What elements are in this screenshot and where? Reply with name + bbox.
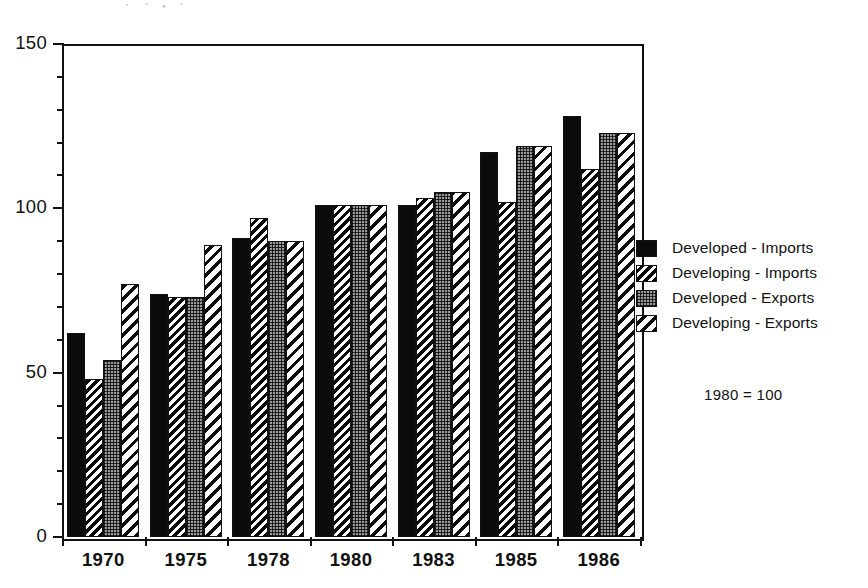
bar <box>416 198 434 537</box>
chart-figure: 050100150 1970197519781980198319851986 D… <box>0 0 868 588</box>
bar <box>286 241 304 537</box>
bar <box>204 245 222 538</box>
x-axis-tick <box>392 537 394 546</box>
bar <box>85 379 103 537</box>
x-axis-tick <box>475 537 477 546</box>
x-axis-tick-label: 1985 <box>475 549 558 575</box>
bar <box>250 218 268 537</box>
x-axis-ticks <box>62 537 640 547</box>
x-axis-tick <box>557 537 559 546</box>
bar-group <box>475 44 558 537</box>
legend-item-label: Developing - Exports <box>672 314 818 332</box>
bar-group <box>62 44 145 537</box>
legend-item-label: Developing - Imports <box>672 264 817 282</box>
legend-item: Developing - Imports <box>636 261 862 285</box>
x-axis-tick <box>145 537 147 546</box>
bar-group <box>145 44 228 537</box>
legend-item-label: Developed - Exports <box>672 289 814 307</box>
legend-item: Developing - Exports <box>636 311 862 335</box>
bar <box>452 192 470 537</box>
x-axis-tick-label: 1986 <box>557 549 640 575</box>
x-axis-tick-label: 1978 <box>227 549 310 575</box>
bar-group <box>557 44 640 537</box>
bar <box>563 116 581 537</box>
bar <box>351 205 369 537</box>
x-axis-tick-label: 1980 <box>310 549 393 575</box>
bar <box>617 133 635 537</box>
x-axis-tick <box>640 537 642 546</box>
bar <box>121 284 139 537</box>
bar <box>186 297 204 537</box>
x-axis-tick <box>310 537 312 546</box>
chart-legend: Developed - Imports Developing - Imports… <box>636 236 862 336</box>
bar <box>315 205 333 537</box>
bar <box>581 169 599 537</box>
legend-item: Developed - Imports <box>636 236 862 260</box>
x-axis-tick <box>62 537 64 546</box>
x-axis-tick-label: 1983 <box>392 549 475 575</box>
bar <box>333 205 351 537</box>
x-axis-tick <box>227 537 229 546</box>
bar <box>369 205 387 537</box>
legend-item: Developed - Exports <box>636 286 862 310</box>
x-axis-labels: 1970197519781980198319851986 <box>62 549 640 575</box>
scan-speckle-artifact <box>120 2 190 8</box>
bar <box>232 238 250 537</box>
bar <box>599 133 617 537</box>
bar <box>434 192 452 537</box>
bar <box>398 205 416 537</box>
bars-layer <box>62 44 640 537</box>
bar <box>534 146 552 537</box>
bar <box>150 294 168 537</box>
bar-group <box>310 44 393 537</box>
legend-swatch-dense-hatch-icon <box>636 265 657 282</box>
bar <box>103 360 121 537</box>
x-axis-tick-label: 1975 <box>145 549 228 575</box>
legend-swatch-solid-black-icon <box>636 240 657 257</box>
bar <box>516 146 534 537</box>
bar <box>498 202 516 537</box>
legend-swatch-gray-dots-icon <box>636 290 657 307</box>
bar-group <box>227 44 310 537</box>
x-axis-tick-label: 1970 <box>62 549 145 575</box>
legend-swatch-wide-hatch-icon <box>636 315 657 332</box>
bar <box>480 152 498 537</box>
base-year-note: 1980 = 100 <box>704 386 783 403</box>
bar <box>168 297 186 537</box>
legend-item-label: Developed - Imports <box>672 239 813 257</box>
bar-group <box>392 44 475 537</box>
bar <box>268 241 286 537</box>
bar <box>67 333 85 537</box>
